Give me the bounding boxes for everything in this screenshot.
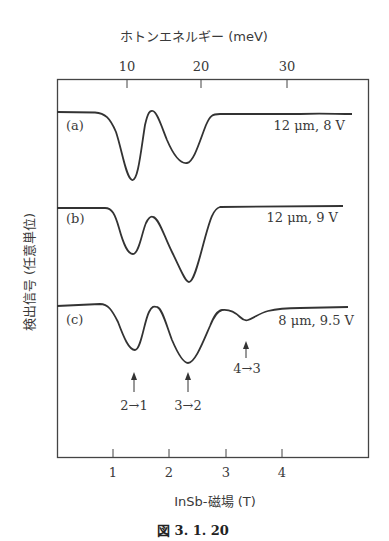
top-ticks	[127, 80, 287, 88]
bottom-tick-1: 1	[109, 465, 117, 480]
bottom-tick-2: 2	[165, 465, 173, 480]
curve-b-note: 12 μm, 9 V	[266, 210, 338, 225]
plot-frame	[58, 80, 369, 458]
top-tick-10: 10	[119, 59, 136, 74]
curve-c-note: 8 μm, 9.5 V	[278, 313, 354, 328]
annotation-2-1: 2→1	[120, 398, 147, 413]
curve-b-label: (b)	[66, 211, 84, 226]
curve-a-label: (a)	[66, 118, 84, 133]
bottom-tick-4: 4	[278, 465, 286, 480]
curve-c-label: (c)	[66, 312, 83, 327]
annotation-4-3: 4→3	[233, 361, 260, 376]
annotation-3-2: 3→2	[174, 398, 201, 413]
curve-a-note: 12 μm, 8 V	[273, 118, 345, 133]
y-axis-title: 検出信号 (任意単位)	[22, 213, 37, 331]
top-tick-30: 30	[279, 59, 296, 74]
chart-figure: ホトンエネルギー (meV) 10 20 30 (a) 12 μm, 8 V (…	[0, 0, 389, 541]
top-axis-title: ホトンエネルギー (meV)	[120, 29, 268, 44]
top-tick-20: 20	[193, 59, 210, 74]
bottom-ticks	[113, 449, 282, 457]
bottom-tick-3: 3	[222, 465, 230, 480]
figure-caption: 図 3. 1. 20	[157, 523, 229, 538]
bottom-axis-title: InSb-磁場 (T)	[174, 494, 256, 509]
transition-arrows	[131, 341, 249, 392]
